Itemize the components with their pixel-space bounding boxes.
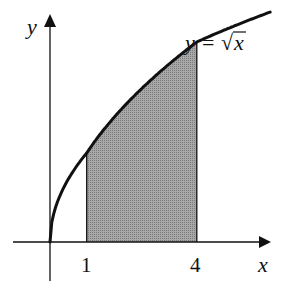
y-axis-label: y [25,14,37,39]
y-axis-arrow-icon [44,14,56,27]
tick-label-4: 4 [190,253,201,277]
tick-label-1: 1 [81,253,92,277]
x-axis-label: x [257,252,268,277]
sqrt-area-diagram: y x 1 4 y = √ x [0,0,291,291]
equation-equals: = [202,30,214,55]
x-axis-arrow-icon [259,236,271,248]
equation-radicand: x [233,30,244,55]
radical-icon: √ [221,30,234,55]
equation-lhs: y [183,30,195,55]
shaded-area [87,42,197,242]
